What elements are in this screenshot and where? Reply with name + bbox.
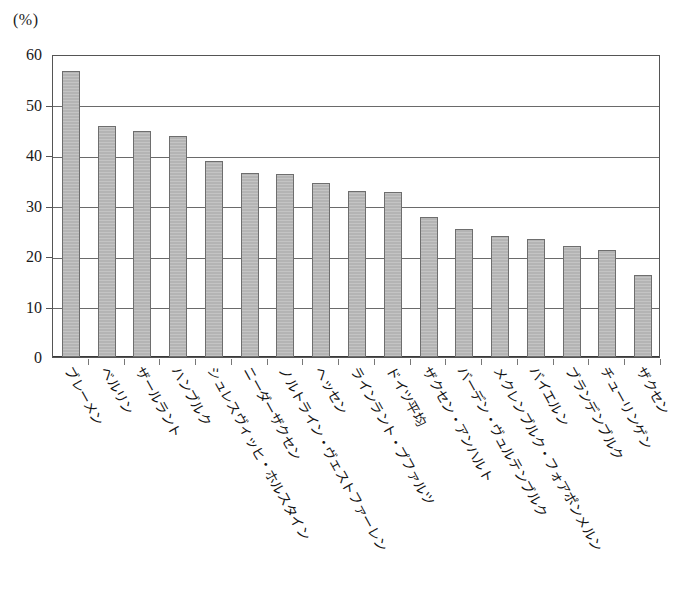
y-axis-tick-mark [46,156,52,157]
y-axis-tick-mark [46,257,52,258]
x-axis-tick-mark [231,359,232,365]
x-axis-tick-mark [88,359,89,365]
x-axis-tick-mark [267,359,268,365]
x-axis-tick-mark [517,359,518,365]
x-axis-category-label: ザクセン [634,365,672,417]
x-axis-category-label: ベルリン [97,365,135,417]
x-axis-tick-mark [624,359,625,365]
x-axis-tick-mark [124,359,125,365]
y-axis-tick-label: 10 [2,300,42,316]
y-axis-tick-label: 30 [2,199,42,215]
x-axis-tick-mark [302,359,303,365]
y-axis-tick-label: 0 [2,350,42,366]
x-axis-tick-mark [410,359,411,365]
x-axis-tick-mark [660,359,661,365]
x-axis-tick-mark [588,359,589,365]
y-axis-tick-label: 20 [2,249,42,265]
x-axis-tick-mark [374,359,375,365]
x-axis-category-labels: ブレーメンベルリンザールラントハンブルクシュレスヴィッヒ・ホルスタインニーダーザ… [0,0,677,606]
x-axis-category-label: ヘッセン [312,365,350,417]
x-axis-tick-mark [159,359,160,365]
x-axis-tick-mark [445,359,446,365]
x-axis-category-label: ザクセン・アンハルト [419,365,494,485]
x-axis-tick-mark [553,359,554,365]
x-axis-tick-mark [338,359,339,365]
chart-page: (%) ブレーメンベルリンザールラントハンブルクシュレスヴィッヒ・ホルスタインニ… [0,0,677,606]
x-axis-tick-mark [481,359,482,365]
y-axis-tick-mark [46,308,52,309]
y-axis-tick-label: 60 [2,47,42,63]
y-axis-tick-label: 50 [2,98,42,114]
y-axis-tick-mark [46,207,52,208]
x-axis-tick-mark [195,359,196,365]
y-axis-tick-mark [46,106,52,107]
y-axis-tick-label: 40 [2,148,42,164]
